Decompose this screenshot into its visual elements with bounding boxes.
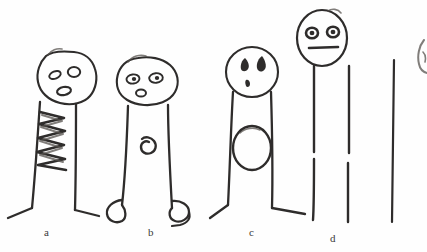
figure-d-pupil-right [331, 30, 336, 34]
figure-d-head [297, 10, 347, 66]
sketch-page: a b c d [0, 0, 427, 252]
figure-a-torso-right [75, 104, 76, 210]
figure-c-torso-oval [233, 126, 271, 170]
figure-b-pupil-left [132, 77, 136, 81]
figure-b-torso-left [122, 106, 128, 205]
figure-d [297, 9, 349, 222]
figure-label-a: a [44, 226, 49, 238]
figure-a-foot-right [75, 210, 99, 216]
figure-b-pupil-right [155, 76, 159, 80]
figure-c-foot-right [272, 208, 305, 214]
figure-b [107, 55, 190, 226]
figure-e-head-fragment-inner [423, 52, 425, 62]
figure-d-mouth [309, 47, 338, 48]
figure-label-c: c [249, 226, 254, 238]
figure-label-d: d [330, 232, 336, 244]
figure-c-mouth [245, 80, 250, 87]
figure-a-mouth [56, 86, 71, 96]
figure-c-eye-left [241, 58, 249, 71]
figure-a [8, 49, 99, 218]
figure-a-head [37, 51, 96, 104]
sketch-canvas [0, 0, 427, 252]
figure-d-leg-left-lower [313, 159, 314, 220]
figure-c-head [226, 47, 278, 97]
figure-b-torso-spiral [141, 137, 156, 153]
figure-e-leg [392, 60, 394, 222]
figure-b-mouth [136, 89, 146, 96]
figure-label-b: b [148, 226, 154, 238]
figure-a-eye-right [68, 67, 80, 77]
figure-a-eye-left [48, 69, 62, 80]
figure-c-foot-left [210, 205, 228, 218]
figure-a-foot-left [8, 208, 32, 218]
figure-a-torso-left [32, 102, 40, 208]
figure-e-partial [392, 40, 427, 222]
figure-c [210, 47, 305, 218]
figure-c-eye-right [257, 56, 266, 72]
figure-b-torso-right [168, 105, 172, 208]
figure-d-pupil-left [310, 31, 315, 35]
